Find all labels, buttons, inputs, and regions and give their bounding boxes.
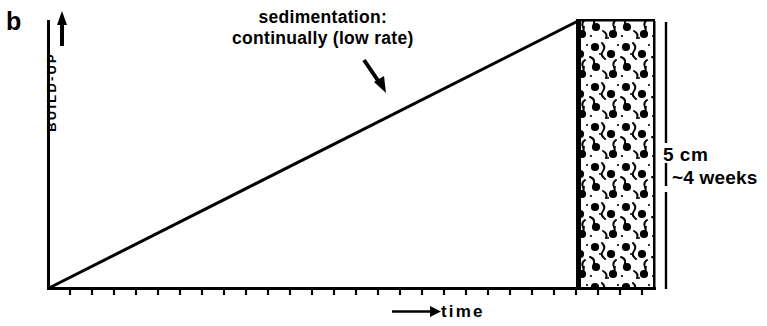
y-axis-label: BUILD-UP xyxy=(45,52,59,132)
figure-panel-b: b sedimentation: continually (low rate) … xyxy=(0,0,767,326)
caption-pointer-arrow-icon xyxy=(364,60,386,93)
figure-caption: sedimentation: continually (low rate) xyxy=(232,8,414,48)
figure-linework xyxy=(0,0,767,326)
caption-line-1: sedimentation: xyxy=(232,8,414,26)
sediment-core-column xyxy=(576,19,656,289)
caption-line-2: continually (low rate) xyxy=(232,29,414,47)
x-axis-label-arrow-icon xyxy=(392,306,441,317)
buildup-trend-line xyxy=(49,21,578,288)
scale-label-length: 5 cm xyxy=(663,145,708,165)
x-axis-label: time xyxy=(441,303,485,321)
y-axis-arrow-icon xyxy=(57,11,67,46)
panel-label: b xyxy=(6,8,21,34)
scale-label-duration: ~4 weeks xyxy=(672,168,758,188)
x-axis xyxy=(47,288,656,295)
